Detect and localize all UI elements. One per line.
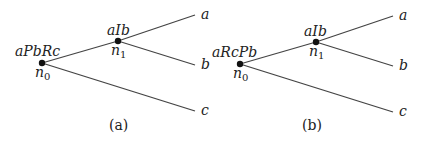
root-label: aPbRc [15, 43, 60, 59]
inner-node-name: n1 [111, 42, 126, 60]
leaf-b: b [399, 57, 408, 73]
caption-b: (b) [302, 117, 322, 133]
root-node-name: n0 [35, 64, 50, 82]
leaf-a: a [201, 6, 209, 22]
leaf-c: c [399, 103, 407, 119]
root-node-name: n0 [233, 65, 248, 83]
edge-n1-b [118, 41, 195, 65]
tree-diagrams: aPbRc n0 aIb n1 a b c (a) aRcPb n0 aIb n… [0, 0, 421, 143]
edge-n1-a [316, 16, 393, 42]
leaf-a: a [399, 7, 407, 23]
edge-n1-b [316, 42, 393, 66]
panel-b: aRcPb n0 aIb n1 a b c (b) [212, 7, 408, 133]
root-label: aRcPb [212, 44, 257, 60]
leaf-c: c [201, 102, 209, 118]
inner-label: aIb [107, 22, 130, 38]
edge-n0-c [240, 64, 393, 112]
leaf-b: b [201, 56, 210, 72]
edge-n0-c [42, 63, 195, 111]
panel-a: aPbRc n0 aIb n1 a b c (a) [15, 6, 210, 133]
inner-node-name: n1 [309, 43, 324, 61]
caption-a: (a) [109, 117, 128, 133]
inner-label: aIb [304, 23, 327, 39]
